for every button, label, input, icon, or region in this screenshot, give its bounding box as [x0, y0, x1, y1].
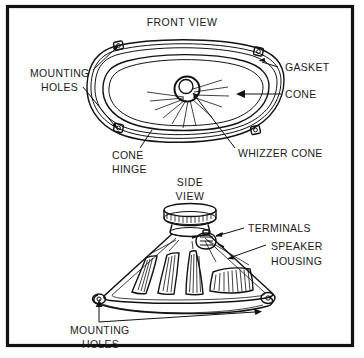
- housing-vents: [132, 240, 253, 295]
- whizzer-cone-dome: [175, 77, 200, 102]
- side-view-group: SIDE VIEW: [70, 176, 323, 350]
- label-cone-hinge-line2: HINGE: [112, 163, 147, 175]
- label-speaker-housing-line2: HOUSING: [271, 255, 322, 267]
- label-mounting-holes-front-line2: HOLES: [41, 81, 78, 93]
- label-cone-hinge-line1: CONE: [112, 149, 144, 161]
- gasket-inner-ring: [95, 48, 277, 135]
- label-gasket: GASKET: [285, 61, 330, 73]
- leader-speaker-housing: [227, 245, 266, 259]
- magnet-assembly: [164, 204, 216, 237]
- diagram-canvas: FRONT VIEW: [0, 0, 364, 358]
- mounting-tab-bottom-right: [250, 125, 260, 135]
- front-view-title: FRONT VIEW: [147, 16, 218, 28]
- label-terminals: TERMINALS: [248, 222, 311, 234]
- label-cone: CONE: [285, 88, 317, 100]
- label-mounting-holes-front-line1: MOUNTING: [30, 67, 90, 79]
- whizzer-cone-rays: [147, 80, 229, 128]
- leader-terminals: [216, 228, 244, 237]
- side-view-title-line2: VIEW: [176, 190, 205, 202]
- speaker-diagram-figure: FRONT VIEW: [0, 0, 364, 358]
- arrow-head-icon: [254, 308, 262, 315]
- label-mounting-holes-side-line1: MOUNTING: [70, 324, 130, 336]
- side-view-title-line1: SIDE: [177, 176, 204, 188]
- arrow-head-icon: [236, 90, 245, 98]
- label-speaker-housing-line1: SPEAKER: [271, 240, 323, 252]
- label-whizzer-cone: WHIZZER CONE: [238, 147, 323, 159]
- label-mounting-holes-side-line2: HOLES: [82, 338, 119, 350]
- leader-mounting-holes-front: [83, 45, 119, 129]
- front-view-group: MOUNTING HOLES GASKET CONE CONE HINGE WH…: [30, 40, 330, 175]
